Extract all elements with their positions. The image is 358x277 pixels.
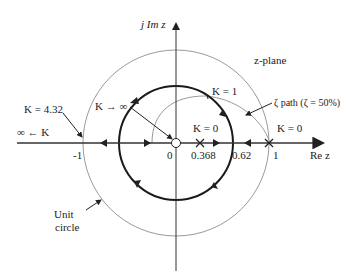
tick-062: 0.62: [232, 150, 251, 161]
arrow-left-of-pole-1: [244, 139, 251, 147]
k-inf-pointer: [130, 107, 172, 139]
k432-pointer: [63, 113, 82, 137]
plane-label: z-plane: [254, 55, 286, 66]
k0-outer-label: K = 0: [277, 123, 302, 134]
locus-arrow-upper-left: [130, 97, 139, 104]
arrow-toward-locus-left: [144, 139, 151, 147]
zeta-path-label: ζ path (ζ = 50%): [274, 98, 340, 108]
zeta-pointer: [246, 103, 272, 115]
unit-circle-label-line2: circle: [55, 222, 79, 233]
k1-label: K = 1: [212, 86, 237, 97]
tick-0: 0: [167, 150, 173, 161]
real-axis-label: Re z: [310, 150, 330, 161]
arrow-right-of-pole-0368: [213, 139, 220, 147]
k-to-inf-label: K → ∞: [95, 101, 127, 112]
z-plane-root-locus-diagram: j Im z z-plane K = 4.32 ∞ ← K K → ∞ K = …: [0, 0, 358, 277]
diagram-svg: [0, 0, 358, 277]
tick-0368: 0.368: [191, 150, 216, 161]
imag-axis-label: j Im z: [141, 19, 165, 30]
arrow-left-of-minus1: [100, 139, 107, 147]
unit-circle-pointer: [86, 200, 101, 210]
k-inf-left-label: ∞ ← K: [17, 127, 49, 138]
k432-label: K = 4.32: [24, 104, 63, 115]
zeta-path-curve: [152, 96, 270, 143]
zero-marker: [172, 139, 181, 148]
k0-inner-label: K = 0: [193, 123, 218, 134]
unit-circle-label-line1: Unit: [54, 209, 74, 220]
tick-1: 1: [273, 150, 279, 161]
tick-minus1: -1: [73, 150, 82, 161]
